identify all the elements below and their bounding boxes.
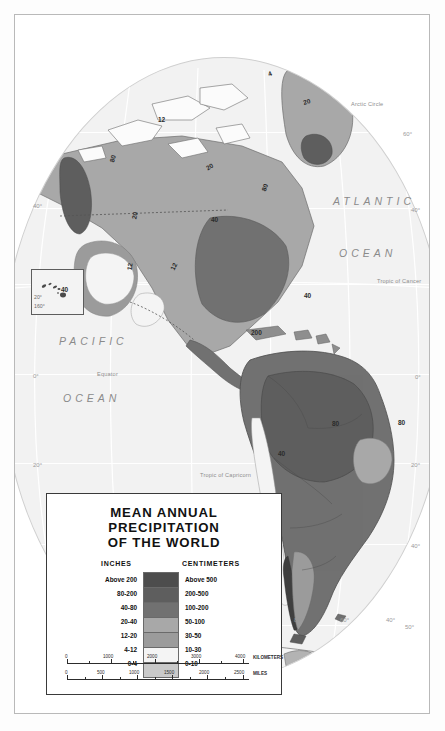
- legend-title: MEAN ANNUAL PRECIPITATION OF THE WORLD: [47, 494, 281, 550]
- legend-swatch: [144, 603, 178, 618]
- scale-number: 0: [65, 654, 68, 659]
- scale-tick: [243, 675, 244, 680]
- legend-column-header-inches: INCHES: [101, 560, 132, 567]
- legend-label-centimeters: 50-100: [185, 618, 205, 625]
- scale-tick: [155, 659, 156, 664]
- scale-tick: [172, 675, 173, 680]
- hawaii-islands: [32, 270, 83, 314]
- scale-number: 2000: [147, 654, 157, 659]
- scale-number: 1000: [129, 670, 139, 675]
- scale-unit-miles: MILES: [253, 671, 267, 676]
- scale-tick-minor: [155, 677, 156, 680]
- scale-number: 500: [97, 670, 105, 675]
- legend-swatch: [144, 573, 178, 588]
- scale-tick: [67, 675, 68, 680]
- legend-label-inches: 40-80: [71, 604, 137, 611]
- scale-axis-line: [67, 679, 249, 680]
- hawaii-inset: 20° 160° 40: [31, 269, 84, 315]
- legend-label-inches: 4-12: [71, 646, 137, 653]
- scale-tick: [207, 675, 208, 680]
- precip-contour-label: 40: [211, 216, 218, 223]
- precip-contour-label: 20: [130, 211, 138, 220]
- legend-swatch: [144, 618, 178, 633]
- scale-tick: [111, 659, 112, 664]
- legend-label-centimeters: 10-30: [185, 646, 201, 653]
- legend-label-centimeters: 200-500: [185, 590, 208, 597]
- scale-number: 1500: [164, 670, 174, 675]
- scale-tick-minor: [221, 661, 222, 664]
- scale-number: 4000: [235, 654, 245, 659]
- map-stage: ATLANTIC OCEAN PACIFIC OCEAN Arctic Circ…: [15, 15, 429, 713]
- legend-label-inches: 20-40: [71, 618, 137, 625]
- scale-bar: 0 1000 2000 3000 4000 KILOMETERS: [61, 654, 269, 686]
- scale-number: 3000: [191, 654, 201, 659]
- scale-unit-kilometers: KILOMETERS: [253, 655, 283, 660]
- precip-contour-label: 40: [278, 450, 285, 457]
- scale-tick: [243, 659, 244, 664]
- scale-number: 2500: [234, 670, 244, 675]
- legend-label-centimeters: 100-200: [185, 604, 208, 611]
- scale-tick: [67, 659, 68, 664]
- scale-number: 0: [65, 670, 68, 675]
- scale-tick-minor: [190, 677, 191, 680]
- precip-contour-label: 40: [304, 292, 311, 299]
- scale-tick: [137, 675, 138, 680]
- precip-contour-label: 200: [251, 329, 262, 336]
- precip-contour-label: 12: [158, 116, 165, 123]
- map-frame: ATLANTIC OCEAN PACIFIC OCEAN Arctic Circ…: [14, 14, 430, 714]
- legend-column-header-centimeters: CENTIMETERS: [182, 560, 240, 567]
- scale-number: 2000: [199, 670, 209, 675]
- inset-precip-contour-label: 40: [61, 286, 68, 293]
- scale-tick-minor: [89, 661, 90, 664]
- legend-title-line1: MEAN ANNUAL PRECIPITATION: [108, 505, 220, 535]
- scale-tick-minor: [133, 661, 134, 664]
- scale-number: 1000: [103, 654, 113, 659]
- scale-tick-minor: [85, 677, 86, 680]
- legend-label-centimeters: Above 500: [185, 576, 217, 583]
- precip-contour-label: 80: [332, 420, 339, 427]
- legend-box: MEAN ANNUAL PRECIPITATION OF THE WORLD I…: [46, 493, 282, 695]
- legend-label-inches: 80-200: [71, 590, 137, 597]
- scale-tick-minor: [177, 661, 178, 664]
- scale-bar-kilometers: 0 1000 2000 3000 4000 KILOMETERS: [61, 654, 269, 670]
- precip-contour-label: 12: [126, 262, 134, 270]
- legend-swatch: [144, 633, 178, 648]
- legend-label-centimeters: 30-50: [185, 632, 201, 639]
- legend-swatch: [144, 588, 178, 603]
- scale-bar-miles: 0 500 1000 1500 2000 2500 MILES: [61, 670, 269, 686]
- legend-label-inches: Above 200: [71, 576, 137, 583]
- legend-label-inches: 12-20: [71, 632, 137, 639]
- scale-tick-minor: [120, 677, 121, 680]
- scale-tick-minor: [225, 677, 226, 680]
- scale-tick: [102, 675, 103, 680]
- scale-tick: [199, 659, 200, 664]
- precip-contour-label: 80: [398, 419, 405, 426]
- legend-title-line2: OF THE WORLD: [55, 535, 273, 550]
- map-page: ATLANTIC OCEAN PACIFIC OCEAN Arctic Circ…: [0, 0, 445, 731]
